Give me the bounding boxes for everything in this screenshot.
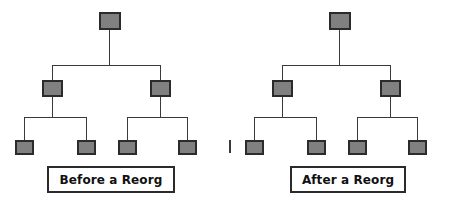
connector-manager-2-stem [160,97,161,117]
connector-level2-bus-right [357,117,418,118]
org-node-manager-2 [150,80,171,97]
connector-drop-leaf-1 [24,117,25,140]
org-chart-after: After a Reorg [230,0,461,202]
caption-box-after: After a Reorg [290,166,406,193]
connector-drop-leaf-4 [187,117,188,140]
connector-root-stem [109,30,110,65]
org-node-manager-1 [272,80,293,97]
connector-drop-manager-1 [52,65,53,80]
org-node-manager-1 [42,80,63,97]
caption-box-before: Before a Reorg [47,166,175,193]
connector-drop-leaf-4 [417,117,418,140]
connector-drop-manager-2 [160,65,161,80]
org-chart-before: Before a Reorg [0,0,231,202]
org-node-root [329,12,351,30]
connector-level2-bus-right [127,117,188,118]
org-node-leaf-4 [408,140,427,155]
org-node-leaf-3 [348,140,367,155]
org-node-leaf-4 [178,140,197,155]
connector-level1-bus [52,65,161,66]
connector-drop-leaf-2 [316,117,317,140]
org-node-leaf-2 [77,140,96,155]
connector-drop-leaf-3 [127,117,128,140]
org-node-leaf-1 [15,140,34,155]
connector-drop-leaf-3 [357,117,358,140]
connector-manager-2-stem [390,97,391,117]
org-node-leaf-2 [307,140,326,155]
connector-level2-bus-left [24,117,87,118]
connector-level2-bus-left [254,117,317,118]
connector-drop-manager-1 [282,65,283,80]
org-node-manager-2 [380,80,401,97]
org-node-leaf-1 [245,140,264,155]
connector-drop-leaf-2 [86,117,87,140]
connector-drop-manager-2 [390,65,391,80]
connector-manager-1-stem [282,97,283,117]
org-node-leaf-3 [118,140,137,155]
center-divider-tick [229,140,231,153]
org-node-root [99,12,121,30]
connector-manager-1-stem [52,97,53,117]
caption-label-before: Before a Reorg [60,173,163,187]
connector-drop-leaf-1 [254,117,255,140]
caption-label-after: After a Reorg [302,173,394,187]
connector-level1-bus [282,65,391,66]
connector-root-stem [339,30,340,65]
org-chart-comparison-figure: Before a Reorg After a Reorg [0,0,461,202]
